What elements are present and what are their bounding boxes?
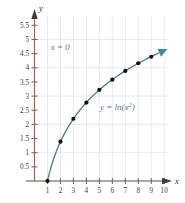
data-point-marker [97,88,101,92]
x-tick-label: 10 [161,187,169,195]
data-point-marker [58,140,62,144]
data-point-marker [136,61,140,65]
y-axis-label: y [38,3,43,13]
y-tick-label: 1 [25,149,29,157]
x-tick-label: 1 [46,187,50,195]
data-point-marker [45,179,49,183]
y-tick-label: 2 [25,121,29,129]
data-point-marker [149,55,153,59]
data-point-marker [110,78,114,82]
y-axis-arrowhead [31,9,37,19]
x-tick-label: 6 [111,187,115,195]
x-tick-label: 5 [98,187,102,195]
chart-container: 0.511.522.533.544.555.5 12345678910 y x … [0,0,185,203]
curve-equation-label: y = ln(x2) [99,101,135,112]
y-tick-label: 3 [25,93,29,101]
y-tick-label: 4 [25,64,29,72]
x-axis-arrowhead [162,178,172,185]
data-point-marker [84,100,88,104]
asymptote-label: x = 0 [50,42,71,52]
x-tick-label: 2 [59,187,63,195]
y-tick-label: 1.5 [20,135,29,143]
x-axis-label: x [174,176,179,186]
y-tick-label: 5 [25,36,29,44]
x-tick-label: 3 [72,187,76,195]
x-tick-label: 4 [85,187,89,195]
y-tick-label: 3.5 [20,79,29,87]
data-point-marker [71,117,75,121]
x-tick-label: 9 [149,187,153,195]
y-tick-label: 4.5 [20,50,29,58]
y-tick-label: 2.5 [20,107,29,115]
chart-plot: 0.511.522.533.544.555.5 12345678910 y x … [0,0,185,203]
x-tick-label: 7 [124,187,128,195]
x-tick-label: 8 [136,187,140,195]
y-tick-label: 5.5 [20,22,29,30]
y-tick-label: 0.5 [20,163,29,171]
data-point-marker [123,69,127,73]
function-curve [47,53,158,181]
